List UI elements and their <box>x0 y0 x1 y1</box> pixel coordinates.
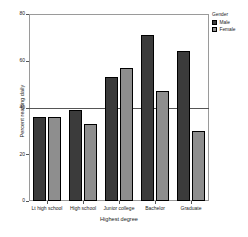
y-axis-tick-label: 0 <box>22 197 25 203</box>
bar-male-0 <box>33 117 47 201</box>
legend-item-male[interactable]: Male <box>212 20 248 25</box>
x-axis-tick-label: Lt high school <box>32 205 63 211</box>
bar-female-4 <box>192 131 206 201</box>
legend-item-label: Female <box>220 27 236 32</box>
bar-female-2 <box>120 68 134 201</box>
y-axis-tick-mark <box>26 201 29 202</box>
x-axis-tick-label: Junior college <box>104 205 135 211</box>
y-axis-tick-label: 20 <box>19 151 25 157</box>
legend-item-label: Male <box>220 20 230 25</box>
legend-title: Gender <box>212 12 248 17</box>
legend-item-female[interactable]: Female <box>212 27 248 32</box>
bar-female-1 <box>84 124 98 201</box>
x-axis-tick-mark <box>119 201 120 204</box>
x-axis-tick-mark <box>155 201 156 204</box>
bar-male-3 <box>141 35 155 201</box>
legend-swatch-icon <box>212 20 217 25</box>
bar-chart: Percent reading daily 020406080 Lt high … <box>0 0 248 237</box>
x-axis-tick-label: High school <box>70 205 96 211</box>
bar-female-0 <box>48 117 62 201</box>
x-axis-title: Highest degree <box>29 216 209 222</box>
x-axis-tick-label: Graduate <box>181 205 202 211</box>
x-axis-tick-label: Bachelor <box>145 205 165 211</box>
bar-male-4 <box>177 51 191 201</box>
legend: Gender MaleFemale <box>212 12 248 34</box>
x-axis-tick-mark <box>47 201 48 204</box>
bar-female-3 <box>156 91 170 201</box>
x-axis-tick-mark <box>191 201 192 204</box>
legend-entries: MaleFemale <box>212 20 248 32</box>
bars-layer <box>29 14 209 201</box>
bar-male-1 <box>69 110 83 201</box>
x-axis-tick-mark <box>83 201 84 204</box>
y-axis-tick-label: 40 <box>19 104 25 110</box>
y-axis-tick-label: 80 <box>19 10 25 16</box>
bar-male-2 <box>105 77 119 201</box>
y-axis-tick-label: 60 <box>19 57 25 63</box>
legend-swatch-icon <box>212 27 217 32</box>
